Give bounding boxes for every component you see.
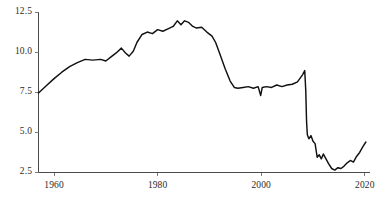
y-tick-label: 12.5	[2, 6, 32, 16]
y-tick-label: 7.5	[2, 86, 32, 96]
y-tick-label: 2.5	[2, 166, 32, 176]
line-chart-plot	[0, 0, 377, 206]
y-tick-label: 10.0	[2, 46, 32, 56]
x-tick-label: 2000	[241, 180, 281, 190]
x-tick-label: 1980	[138, 180, 178, 190]
data-series-line	[39, 21, 366, 170]
axes-group	[35, 12, 370, 176]
chart-container: 2.55.07.510.012.5 1960198020002020	[0, 0, 377, 206]
y-tick-label: 5.0	[2, 126, 32, 136]
x-tick-label: 2020	[345, 180, 377, 190]
x-tick-label: 1960	[34, 180, 74, 190]
